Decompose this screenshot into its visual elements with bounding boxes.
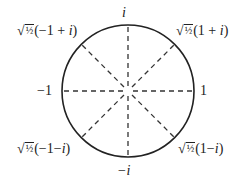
fraction-half: ½ bbox=[186, 142, 196, 154]
spoke-135 bbox=[81, 44, 124, 87]
label-bottom-left: √½(−1−i) bbox=[17, 142, 70, 156]
fraction-half: ½ bbox=[184, 24, 194, 36]
close-paren: ) bbox=[224, 23, 229, 38]
close-paren: ) bbox=[66, 141, 71, 156]
sqrt-symbol: √ bbox=[17, 23, 25, 38]
label-bottom-right: √½(1−i) bbox=[178, 142, 223, 156]
label-minus-1: −1 bbox=[37, 84, 52, 98]
sqrt-symbol: √ bbox=[178, 141, 186, 156]
label-top-right: √½(1 + i) bbox=[176, 24, 228, 38]
label-1: 1 bbox=[200, 84, 207, 98]
close-paren: ) bbox=[73, 23, 78, 38]
expr-text: (1− bbox=[195, 141, 215, 156]
expr-text: (−1 + bbox=[34, 23, 68, 38]
expr-text: (1 + bbox=[193, 23, 220, 38]
unit-circle bbox=[62, 25, 194, 157]
label-top-left: √½(−1 + i) bbox=[17, 24, 77, 38]
label-i: i bbox=[122, 6, 126, 20]
fraction-half: ½ bbox=[25, 24, 35, 36]
label-minus-i: −i bbox=[117, 164, 130, 178]
fraction-half: ½ bbox=[25, 142, 35, 154]
spoke-315 bbox=[132, 95, 175, 138]
spoke-225 bbox=[81, 95, 124, 138]
sqrt-symbol: √ bbox=[17, 141, 25, 156]
close-paren: ) bbox=[219, 141, 224, 156]
spoke-45 bbox=[132, 44, 175, 87]
sqrt-symbol: √ bbox=[176, 23, 184, 38]
label-minus-i-text: −i bbox=[117, 163, 130, 178]
expr-text: (−1− bbox=[34, 141, 61, 156]
unit-circle-diagram: i −i −1 1 √½(−1 + i) √½(1 + i) √½(−1−i) … bbox=[0, 0, 247, 186]
